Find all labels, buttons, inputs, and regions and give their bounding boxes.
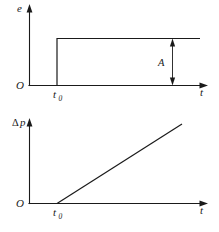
step-y-axis-arrowhead (27, 4, 33, 13)
step-y-axis (27, 4, 33, 86)
ramp-y-axis-var: p (19, 116, 26, 128)
ramp-y-axis-label: Δ p (12, 116, 26, 128)
step-y-axis-label: e (17, 2, 22, 14)
ramp-t0-label: t 0 (53, 206, 63, 221)
step-origin-label: O (16, 79, 24, 91)
step-t0-subscript: 0 (59, 94, 63, 103)
ramp-t0-subscript: 0 (59, 212, 63, 221)
amplitude-arrow-up (170, 39, 175, 47)
ramp-origin-label: O (16, 197, 24, 209)
ramp-plot: Δ p t O t 0 (0, 110, 219, 232)
step-x-axis-label: t (200, 86, 204, 98)
step-plot: A e t O t 0 (0, 0, 219, 110)
step-t0-label: t 0 (53, 88, 63, 103)
ramp-y-axis (27, 118, 33, 204)
ramp-t0-base: t (53, 206, 57, 218)
amplitude-arrow-down (170, 78, 175, 86)
amplitude-label: A (157, 57, 165, 68)
amplitude-dimension (170, 39, 175, 86)
ramp-y-axis-arrowhead (27, 118, 33, 127)
ramp-y-axis-delta: Δ (12, 117, 19, 128)
ramp-x-axis-label: t (200, 204, 204, 216)
ramp-curve (57, 124, 182, 204)
figure-root: A e t O t 0 Δ p t (0, 0, 219, 232)
step-t0-base: t (53, 88, 57, 100)
